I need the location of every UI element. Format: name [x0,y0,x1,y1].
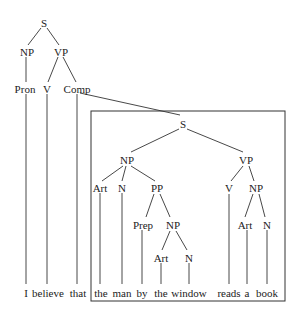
node-art-2: Art [154,252,169,264]
node-np-obj: NP [249,182,263,194]
tree-edges [26,28,267,284]
word: book [256,287,279,299]
node-vp-inner: VP [239,154,253,166]
node-comp: Comp [64,83,91,95]
word: reads [217,287,240,299]
syntax-tree-diagram: S NP VP Pron V Comp S NP VP Art N PP V N… [0,0,304,322]
word: I [24,287,28,299]
word: believe [32,287,64,299]
word: by [137,287,149,299]
word: window [171,287,207,299]
word: the [94,287,108,299]
tree-nodes: S NP VP Pron V Comp S NP VP Art N PP V N… [15,17,271,264]
word: the [154,287,168,299]
node-n-2: N [185,252,193,264]
node-s-inner: S [180,118,186,130]
node-art-1: Art [93,182,108,194]
node-n-obj: N [263,219,271,231]
node-pp: PP [151,182,163,194]
node-v-top: V [43,83,51,95]
node-art-obj: Art [238,219,253,231]
node-np-subj: NP [120,154,134,166]
word: man [113,287,132,299]
node-prep: Prep [133,219,154,231]
node-v-inner: V [225,182,233,194]
node-np-top: NP [20,46,34,58]
word: a [245,287,250,299]
node-n-1: N [118,182,126,194]
embedded-clause-box [91,111,285,301]
node-vp-top: VP [54,46,68,58]
sentence-words: I believe that the man by the window rea… [24,287,278,299]
word: that [70,287,87,299]
node-pron: Pron [15,83,36,95]
node-s-top: S [41,17,47,29]
node-np-pp: NP [166,219,180,231]
